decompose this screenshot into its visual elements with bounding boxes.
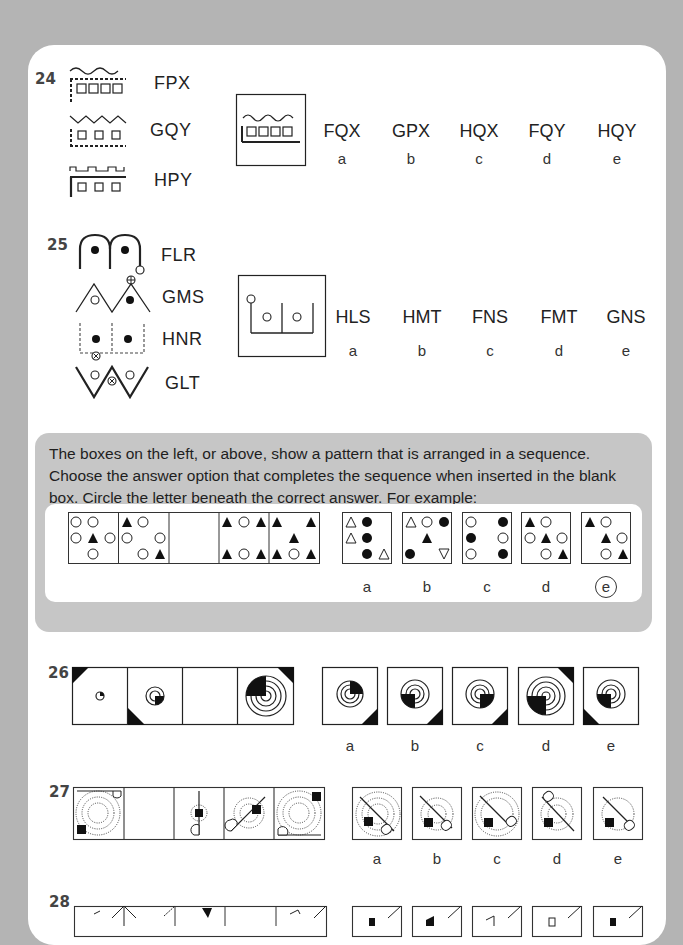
question-number-28: 28 (49, 893, 70, 911)
example-option-d-figure[interactable] (521, 512, 571, 564)
q24-option-c[interactable]: c (459, 150, 499, 167)
q25-example-code-3: HNR (162, 329, 203, 350)
q27-option-c-figure[interactable] (472, 787, 522, 840)
q24-example-figure-1 (68, 66, 128, 102)
example-option-c-figure[interactable] (462, 512, 512, 564)
q28-option-e-figure[interactable] (593, 906, 643, 926)
example-box: a b c d e (45, 504, 642, 602)
q25-example-figure-2 (74, 276, 150, 314)
q25-target-figure (238, 275, 326, 357)
q24-option-code-e: HQY (587, 121, 647, 142)
example-option-b-figure[interactable] (402, 512, 452, 564)
q24-option-code-a: FQX (312, 121, 372, 142)
q26-option-a[interactable]: a (330, 737, 370, 754)
q26-option-a-figure[interactable] (322, 667, 378, 725)
q24-option-code-c: HQX (449, 121, 509, 142)
q27-option-d[interactable]: d (537, 850, 577, 867)
example-answer-circled: e (595, 576, 617, 598)
q24-example-figure-2 (68, 113, 128, 149)
example-option-b[interactable]: b (407, 578, 447, 595)
q26-option-c-figure[interactable] (452, 667, 508, 725)
q26-option-b-figure[interactable] (387, 667, 443, 725)
q27-option-c[interactable]: c (477, 850, 517, 867)
question-number-25: 25 (47, 236, 68, 254)
q27-option-e-figure[interactable] (593, 787, 643, 840)
q25-example-code-1: FLR (161, 245, 197, 266)
q27-option-b[interactable]: b (417, 850, 457, 867)
q25-example-code-2: GMS (162, 287, 205, 308)
q26-option-d-figure[interactable] (518, 667, 574, 725)
q25-option-d[interactable]: d (539, 342, 579, 359)
q24-example-code-3: HPY (154, 170, 193, 191)
q25-option-e[interactable]: e (606, 342, 646, 359)
q27-option-d-figure[interactable] (532, 787, 582, 840)
question-number-26: 26 (48, 664, 69, 682)
instructions-panel: The boxes on the left, or above, show a … (35, 433, 652, 632)
q25-option-code-d: FMT (529, 307, 589, 328)
q27-option-a[interactable]: a (357, 850, 397, 867)
q26-option-c[interactable]: c (460, 737, 500, 754)
example-option-d[interactable]: d (526, 578, 566, 595)
q25-option-code-b: HMT (392, 307, 452, 328)
question-number-27: 27 (49, 783, 70, 801)
q25-option-b[interactable]: b (402, 342, 442, 359)
q24-option-a[interactable]: a (322, 150, 362, 167)
example-option-a[interactable]: a (347, 578, 387, 595)
example-sequence-figure (68, 512, 320, 564)
q28-option-b-figure[interactable] (412, 906, 462, 926)
q25-option-code-e: GNS (596, 307, 656, 328)
q24-option-code-b: GPX (381, 121, 441, 142)
example-option-a-figure[interactable] (342, 512, 392, 564)
q24-target-figure (236, 94, 306, 166)
q28-option-c-figure[interactable] (472, 906, 522, 926)
q26-option-b[interactable]: b (395, 737, 435, 754)
q24-example-code-1: FPX (154, 73, 191, 94)
q24-option-code-d: FQY (517, 121, 577, 142)
q25-option-code-c: FNS (460, 307, 520, 328)
q26-option-e[interactable]: e (591, 737, 631, 754)
q26-sequence-figure (72, 667, 294, 725)
q28-sequence-figure (74, 906, 327, 926)
q25-example-figure-1 (78, 233, 148, 275)
q25-example-figure-4 (74, 365, 150, 401)
q28-option-d-figure[interactable] (532, 906, 582, 926)
q27-option-a-figure[interactable] (352, 787, 402, 840)
q25-example-figure-3 (78, 321, 148, 361)
question-number-24: 24 (35, 70, 56, 88)
q26-option-e-figure[interactable] (583, 667, 639, 725)
q24-option-e[interactable]: e (597, 150, 637, 167)
q24-example-figure-3 (68, 163, 128, 199)
q27-sequence-figure (73, 787, 325, 840)
q27-option-b-figure[interactable] (412, 787, 462, 840)
q25-example-code-4: GLT (165, 373, 200, 394)
example-option-e-figure[interactable] (581, 512, 631, 564)
q25-option-c[interactable]: c (470, 342, 510, 359)
instructions-text: The boxes on the left, or above, show a … (49, 443, 644, 509)
example-option-c[interactable]: c (467, 578, 507, 595)
example-option-e[interactable]: e (586, 576, 626, 598)
q25-option-a[interactable]: a (333, 342, 373, 359)
q28-option-a-figure[interactable] (352, 906, 402, 926)
q24-option-d[interactable]: d (527, 150, 567, 167)
q27-option-e[interactable]: e (598, 850, 638, 867)
q26-option-d[interactable]: d (526, 737, 566, 754)
q25-option-code-a: HLS (323, 307, 383, 328)
q24-example-code-2: GQY (150, 120, 192, 141)
q24-option-b[interactable]: b (391, 150, 431, 167)
